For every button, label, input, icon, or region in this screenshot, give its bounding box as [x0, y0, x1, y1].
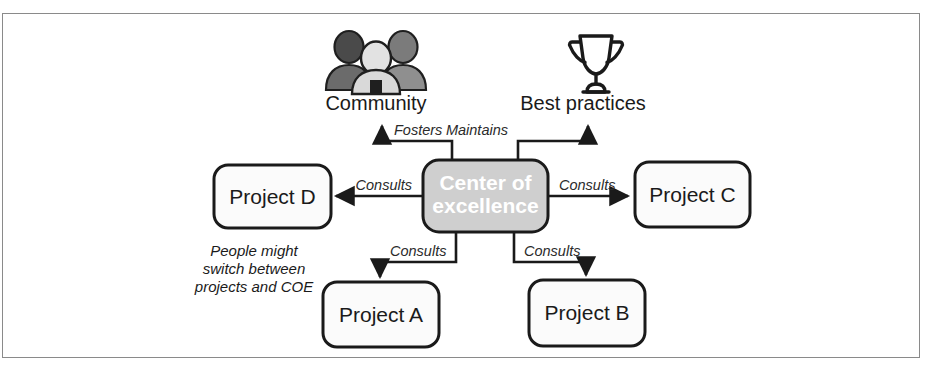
edge-community-label: Fosters	[394, 122, 442, 138]
edge-project-b-label: Consults	[524, 243, 580, 259]
node-project-a-label: Project A	[339, 303, 423, 326]
node-project-d-label: Project D	[229, 185, 315, 208]
node-project-a[interactable]: Project A	[323, 282, 439, 347]
community-icon	[326, 31, 426, 94]
diagram-canvas: Community Best practices Fosters Maintai…	[0, 0, 936, 374]
edge-project-a-label: Consults	[390, 243, 446, 259]
edge-project-d-label: Consults	[356, 177, 412, 193]
people-switch-note: People might switch between projects and…	[194, 242, 314, 295]
diagram-svg: Community Best practices Fosters Maintai…	[0, 0, 936, 374]
center-label-line1: Center of	[439, 171, 532, 194]
note-line-2: switch between	[203, 260, 306, 277]
trophy-icon	[570, 36, 623, 92]
node-project-b[interactable]: Project B	[529, 280, 645, 346]
edge-best-practices	[518, 126, 588, 159]
node-project-c-label: Project C	[649, 183, 735, 206]
node-center-of-excellence[interactable]: Center of excellence	[423, 160, 548, 232]
community-label: Community	[325, 92, 426, 114]
node-project-b-label: Project B	[544, 301, 629, 324]
edge-best-practices-label: Maintains	[446, 122, 508, 138]
edge-project-c-label: Consults	[559, 177, 615, 193]
note-line-1: People might	[210, 242, 298, 259]
node-project-d[interactable]: Project D	[214, 165, 331, 228]
node-project-c[interactable]: Project C	[635, 162, 750, 227]
center-label-line2: excellence	[432, 194, 538, 217]
best-practices-label: Best practices	[520, 92, 646, 114]
note-line-3: projects and COE	[194, 278, 314, 295]
